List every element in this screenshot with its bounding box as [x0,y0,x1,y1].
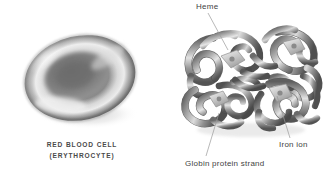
globin-protein-strand-label: Globin protein strand [185,159,265,168]
hemoglobin-molecule-icon [173,16,325,140]
figure-root: RED BLOOD CELL (ERYTHROCYTE) [0,0,329,176]
heme-group-upper-left [221,50,245,68]
red-blood-cell-caption-line-2: (ERYTHROCYTE) [0,151,164,162]
red-blood-cell-caption: RED BLOOD CELL (ERYTHROCYTE) [0,140,164,161]
heme-label: Heme [196,2,218,11]
red-blood-cell-icon [20,28,144,132]
hemoglobin-panel: Heme Iron ion Globin protein strand [165,0,329,176]
red-blood-cell-caption-line-1: RED BLOOD CELL [0,140,164,151]
iron-ion-label: Iron ion [279,140,308,149]
red-blood-cell-panel: RED BLOOD CELL (ERYTHROCYTE) [0,0,164,176]
